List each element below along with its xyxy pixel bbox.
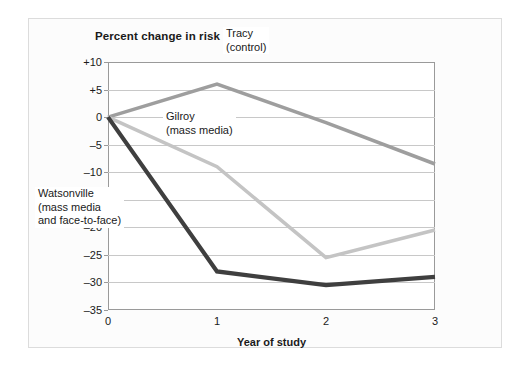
- series-label-gilroy-line1: Gilroy: [166, 110, 233, 124]
- y-tick-label: –10: [84, 166, 102, 178]
- series-label-gilroy: Gilroy (mass media): [163, 110, 236, 137]
- series-label-tracy-line1: Tracy: [226, 27, 266, 41]
- y-tick-mark: [104, 310, 108, 311]
- y-tick-label: –30: [84, 276, 102, 288]
- x-tick-label: 3: [432, 315, 438, 327]
- series-label-gilroy-line2: (mass media): [166, 124, 233, 138]
- chart-title: Percent change in risk: [95, 30, 220, 42]
- y-tick-label: +10: [83, 56, 102, 68]
- figure-canvas: Percent change in risk +10+50–5–10–15–20…: [0, 0, 530, 374]
- plot-area: +10+50–5–10–15–20–25–30–35 0123 Year of …: [108, 62, 435, 310]
- y-tick-label: +5: [89, 84, 102, 96]
- x-tick-label: 2: [323, 315, 329, 327]
- series-label-watsonville-line1: Watsonville: [38, 187, 121, 201]
- y-tick-label: –25: [84, 249, 102, 261]
- series-label-watsonville-line3: and face-to-face): [38, 214, 121, 228]
- series-label-watsonville: Watsonville (mass media and face-to-face…: [35, 187, 124, 228]
- y-tick-label: –5: [90, 139, 102, 151]
- series-label-watsonville-line2: (mass media: [38, 201, 121, 215]
- x-tick-label: 1: [214, 315, 220, 327]
- y-tick-label: –35: [84, 304, 102, 316]
- x-tick-label: 0: [105, 315, 111, 327]
- series-label-tracy-line2: (control): [226, 41, 266, 55]
- series-label-tracy: Tracy (control): [223, 27, 269, 54]
- y-tick-label: 0: [96, 111, 102, 123]
- series-line: [108, 84, 435, 164]
- series-line: [108, 117, 435, 285]
- x-axis-title: Year of study: [108, 336, 435, 348]
- series-lines: [108, 62, 435, 310]
